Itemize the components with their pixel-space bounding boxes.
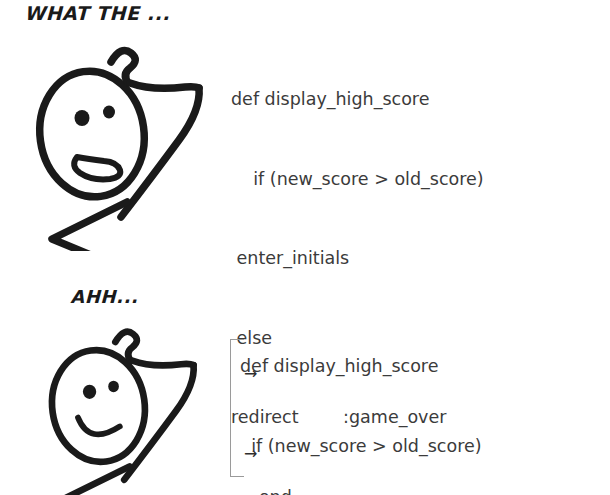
stick-figure-happy [18, 310, 218, 495]
stick-figure-confused [14, 26, 214, 251]
arm-raised-upper [130, 83, 199, 88]
caption-ahh: AHH... [71, 286, 140, 307]
mouth-frown [74, 157, 120, 179]
code-line: if (new_score > old_score) [231, 166, 484, 193]
code-block-formatted: def display_high_score if (new_score > o… [240, 300, 482, 495]
eye-right [108, 381, 119, 393]
arm-bent [52, 202, 127, 251]
eye-left [83, 385, 96, 399]
mouth-smile [78, 418, 120, 435]
arm-raised-lower [121, 88, 199, 217]
panel-confused: WHAT THE ... def display_high_score if (… [0, 0, 610, 262]
arm-bent [63, 466, 130, 495]
code-line: def display_high_score [240, 353, 482, 380]
code-line: if (new_score > old_score) [240, 433, 482, 460]
arm-raised-upper [132, 361, 193, 366]
arm-raised-lower [124, 365, 193, 480]
eye-right [103, 106, 115, 119]
caption-what-the: WHAT THE ... [25, 2, 172, 24]
eye-left [75, 110, 90, 126]
code-line: def display_high_score [231, 86, 484, 113]
